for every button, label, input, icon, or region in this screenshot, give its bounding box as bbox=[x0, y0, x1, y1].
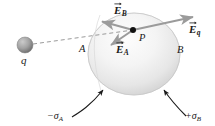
label-sigma-a: −σA bbox=[47, 111, 63, 123]
label-e-b-sub: B bbox=[122, 9, 127, 18]
label-sigma-a-main: −σ bbox=[47, 110, 59, 121]
physics-field-diagram: q A B P EB EA Eq bbox=[0, 0, 215, 126]
charged-sphere bbox=[88, 13, 180, 95]
leader-arrow-sigma-b bbox=[164, 90, 186, 116]
label-charge-q: q bbox=[21, 55, 27, 66]
label-region-b: B bbox=[177, 45, 183, 56]
label-vector-e-q: Eq bbox=[189, 24, 201, 37]
label-e-b-main: E bbox=[114, 4, 121, 16]
label-vector-e-b: EB bbox=[114, 5, 127, 18]
point-charge-q bbox=[17, 37, 33, 53]
label-sigma-b-main: +σ bbox=[185, 110, 197, 121]
point-p-marker bbox=[130, 27, 136, 33]
vector-bar-icon bbox=[189, 20, 197, 25]
label-region-a: A bbox=[79, 44, 85, 55]
label-vector-e-a: EA bbox=[116, 44, 129, 57]
label-sigma-b-sub: B bbox=[197, 115, 201, 123]
figure-canvas bbox=[0, 0, 215, 126]
vector-bar-icon bbox=[116, 40, 124, 45]
label-e-q-main: E bbox=[189, 23, 196, 35]
leader-arrow-sigma-a bbox=[72, 90, 103, 117]
label-e-q-sub: q bbox=[197, 28, 201, 37]
label-point-p: P bbox=[139, 33, 145, 44]
vector-bar-icon bbox=[114, 1, 122, 6]
label-sigma-a-sub: A bbox=[59, 115, 63, 123]
label-sigma-b: +σB bbox=[185, 111, 201, 123]
label-e-a-sub: A bbox=[124, 48, 129, 57]
label-e-a-main: E bbox=[116, 43, 123, 55]
